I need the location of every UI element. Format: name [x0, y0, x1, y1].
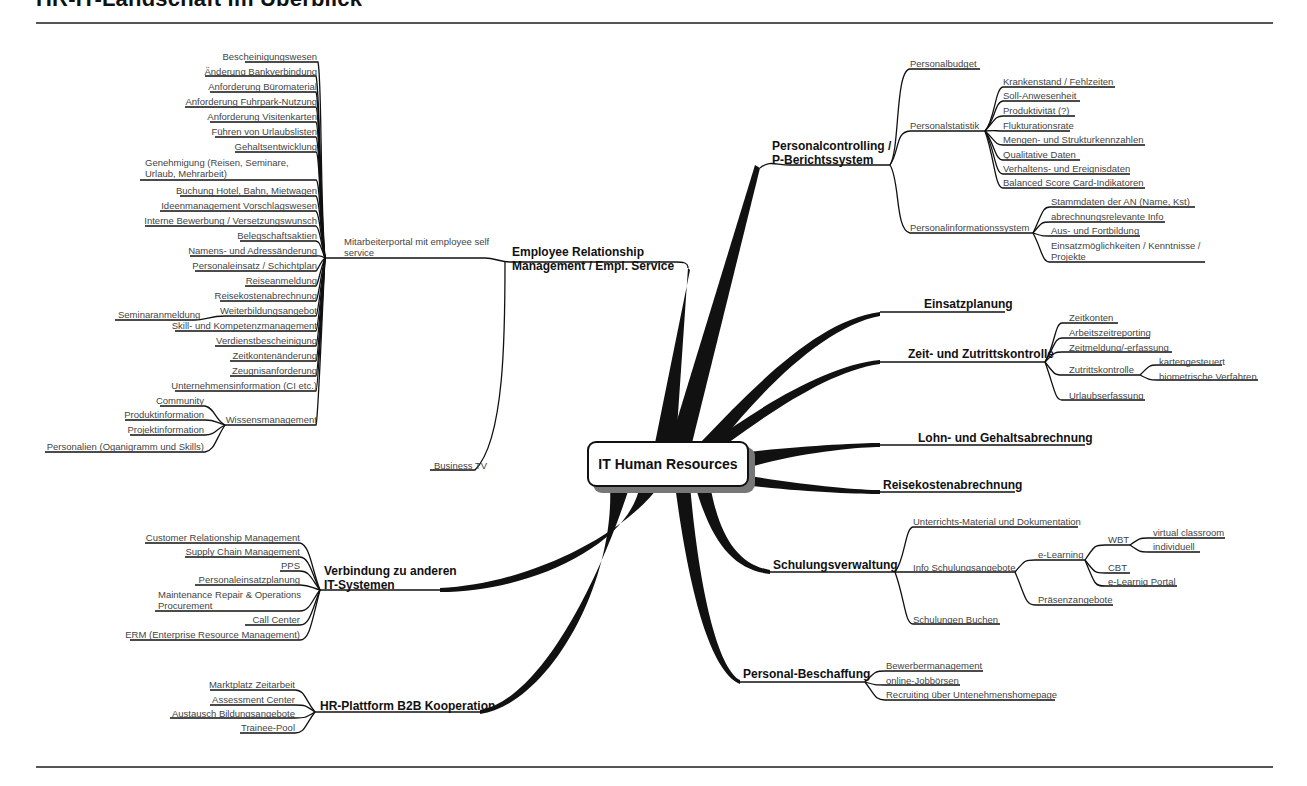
node-statistik-item[interactable]: Verhaltens- und Ereignisdaten [1003, 163, 1130, 174]
branch-erm[interactable]: Employee Relationship Management / Empl.… [512, 245, 674, 273]
node-statistik-item[interactable]: Mengen- und Strukturkennzahlen [1003, 134, 1143, 145]
node-portal-item[interactable]: Weiterbildungsangebot [220, 305, 317, 316]
branch-zeit[interactable]: Zeit- und Zutrittskontrolle [908, 347, 1054, 361]
node-beschaffung-item[interactable]: online-Jobbörsen [886, 675, 959, 686]
node-zeit-item[interactable]: Zeitkonten [1069, 312, 1113, 323]
branch-reisekosten[interactable]: Reisekostenabrechnung [883, 478, 1022, 492]
node-portal-item[interactable]: Interne Bewerbung / Versetzungswunsch [144, 215, 317, 226]
node-portal-item[interactable]: Bescheinigungswesen [222, 51, 317, 62]
node-business-tv[interactable]: Business TV [434, 460, 487, 471]
node-portal-item[interactable]: Belegschaftsaktien [237, 230, 317, 241]
node-cbt[interactable]: CBT [1108, 562, 1127, 573]
node-schulung-item[interactable]: Unterrichts-Material und Dokumentation [913, 516, 1081, 527]
node-pis-item[interactable]: Aus- und Fortbildung [1051, 225, 1139, 236]
node-b2b-item[interactable]: Marktplatz Zeitarbeit [209, 679, 295, 690]
node-elearning-portal[interactable]: e-Learnig Portal [1108, 576, 1176, 587]
node-portal-item[interactable]: Führen von Urlaubslisten [211, 126, 317, 137]
node-portal-item[interactable]: Verdienstbescheinigung [216, 335, 317, 346]
node-portal-item[interactable]: Personaleinsatz / Schichtplan [192, 260, 317, 271]
branch-erm-line1: Employee Relationship [512, 245, 674, 259]
node-it-item[interactable]: Supply Chain Management [185, 546, 300, 557]
node-beschaffung-item[interactable]: Recruiting über Untenehmenshomepage [886, 689, 1057, 700]
branch-schulung[interactable]: Schulungsverwaltung [773, 558, 898, 572]
node-portal-item[interactable]: Zeugnisanforderung [232, 365, 317, 376]
central-node[interactable]: IT Human Resources [587, 441, 749, 487]
node-portal-item[interactable]: Namens- und Adressänderung [188, 245, 317, 256]
node-zeit-item[interactable]: Zeitmeldung/-erfassung [1069, 342, 1169, 353]
node-wissen-item[interactable]: Community [156, 395, 204, 406]
node-portal-item[interactable]: Anforderung Visitenkarten [207, 111, 317, 122]
branch-erm-line2: Management / Empl. Service [512, 259, 674, 273]
node-wbt-item[interactable]: individuell [1153, 541, 1195, 552]
node-zutritt-item[interactable]: biometrische Verfahren [1159, 371, 1257, 382]
node-personalinformationssystem[interactable]: Personalinformationssystem [910, 222, 1029, 233]
node-personalstatistik[interactable]: Personalstatistik [910, 120, 979, 131]
branch-b2b[interactable]: HR-Plattform B2B Kooperation [320, 699, 495, 713]
node-statistik-item[interactable]: Krankenstand / Fehlzeiten [1003, 76, 1113, 87]
node-zeit-item[interactable]: Urlaubserfassung [1069, 390, 1143, 401]
node-portal-item[interactable]: Unternehmensinformation (CI etc.) [171, 380, 317, 391]
node-portal-item[interactable]: Genehmigung (Reisen, Seminare, Urlaub, M… [145, 157, 315, 179]
node-elearning[interactable]: e-Learning [1038, 549, 1083, 560]
branch-controlling[interactable]: Personalcontrolling / P-Berichtssystem [772, 139, 891, 167]
node-it-item[interactable]: Customer Relationship Management [146, 532, 300, 543]
node-seminaranmeldung[interactable]: Seminaranmeldung [118, 309, 200, 320]
node-zeit-item[interactable]: Arbeitszeitreporting [1069, 327, 1151, 338]
node-zutritt-item[interactable]: kartengesteuert [1159, 356, 1225, 367]
node-portal-item[interactable]: Reisekostenabrechnung [215, 290, 317, 301]
node-pis-item[interactable]: Einsatzmöglichkeiten / Kenntnisse / Proj… [1051, 240, 1201, 262]
node-beschaffung-item[interactable]: Bewerbermanagement [886, 660, 982, 671]
node-statistik-item[interactable]: Produktivität (?) [1003, 105, 1070, 116]
node-it-item[interactable]: Call Center [252, 614, 300, 625]
branch-it-line1: Verbindung zu anderen [324, 564, 457, 578]
node-schulung-item[interactable]: Schulungen Buchen [913, 614, 998, 625]
node-it-item[interactable]: Maintenance Repair & Operations Procurem… [158, 589, 308, 611]
node-b2b-item[interactable]: Trainee-Pool [241, 722, 295, 733]
branch-controlling-line2: P-Berichtssystem [772, 153, 891, 167]
node-statistik-item[interactable]: Soll-Anwesenheit [1003, 90, 1076, 101]
node-it-item[interactable]: PPS [281, 560, 300, 571]
node-portal-item[interactable]: Reiseanmeldung [246, 275, 317, 286]
node-statistik-item[interactable]: Balanced Score Card-Indikatoren [1003, 177, 1143, 188]
node-portal-item[interactable]: Ideenmanagement Vorschlagswesen [161, 200, 317, 211]
branch-lohn[interactable]: Lohn- und Gehaltsabrechnung [918, 431, 1093, 445]
node-info-schulungsangebote[interactable]: Info Schulungsangebote [913, 562, 1015, 573]
node-b2b-item[interactable]: Assessment Center [212, 694, 295, 705]
node-pis-item[interactable]: abrechnungsrelevante Info [1051, 211, 1164, 222]
node-personalbudget[interactable]: Personalbudget [910, 58, 977, 69]
node-portal-item[interactable]: Änderung Bankverbindung [204, 66, 317, 77]
node-portal-item[interactable]: Anforderung Büromaterial [208, 81, 317, 92]
node-b2b-item[interactable]: Austausch Bildungsangebote [172, 708, 295, 719]
node-portal-item[interactable]: Skill- und Kompetenzmanagement [172, 320, 317, 331]
branch-it-systeme[interactable]: Verbindung zu anderen IT-Systemen [324, 564, 457, 592]
node-wissen-item[interactable]: Projektinformation [127, 424, 204, 435]
node-portal-item[interactable]: Anforderung Fuhrpark-Nutzung [186, 96, 318, 107]
node-wissen-item[interactable]: Produktinformation [124, 409, 204, 420]
branch-beschaffung[interactable]: Personal-Beschaffung [743, 667, 870, 681]
node-it-item[interactable]: Personaleinsatzplanung [199, 574, 300, 585]
node-wbt[interactable]: WBT [1108, 534, 1129, 545]
node-it-item[interactable]: ERM (Enterprise Resource Management) [125, 629, 300, 640]
node-zutrittskontrolle[interactable]: Zutrittskontrolle [1069, 364, 1134, 375]
central-node-label: IT Human Resources [598, 456, 737, 472]
node-statistik-item[interactable]: Flukturationsrate [1003, 120, 1074, 131]
node-portal-item[interactable]: Buchung Hotel, Bahn, Mietwagen [176, 185, 317, 196]
node-portal-item[interactable]: Zeitkontenänderung [232, 350, 317, 361]
branch-controlling-line1: Personalcontrolling / [772, 139, 891, 153]
branch-einsatzplanung[interactable]: Einsatzplanung [924, 297, 1013, 311]
node-statistik-item[interactable]: Qualitative Daten [1003, 149, 1076, 160]
node-praesenz[interactable]: Präsenzangebote [1038, 594, 1112, 605]
node-portal-item[interactable]: Gehaltsentwicklung [235, 141, 317, 152]
node-pis-item[interactable]: Stammdaten der AN (Name, Kst) [1051, 196, 1190, 207]
node-wissensmanagement[interactable]: Wissensmanagement [226, 414, 317, 425]
branch-it-line2: IT-Systemen [324, 578, 457, 592]
node-wbt-item[interactable]: virtual classroom [1153, 527, 1224, 538]
node-wissen-item[interactable]: Personalien (Oganigramm und Skills) [47, 441, 204, 452]
node-portal[interactable]: Mitarbeiterportal mit employee self serv… [344, 236, 494, 258]
